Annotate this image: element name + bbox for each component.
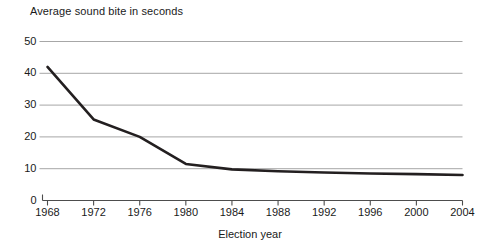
x-tick-label-2000: 2000 <box>396 206 436 218</box>
y-tick-label-50: 50 <box>15 35 37 47</box>
axis-group <box>43 195 463 201</box>
x-tick-label-1984: 1984 <box>212 206 252 218</box>
chart-container: Average sound bite in seconds 0102030405… <box>0 0 500 252</box>
y-tick-label-0: 0 <box>15 194 37 206</box>
x-tick-label-1980: 1980 <box>166 206 206 218</box>
x-tick-label-1992: 1992 <box>304 206 344 218</box>
y-tick-label-30: 30 <box>15 98 37 110</box>
x-tick-label-1988: 1988 <box>258 206 298 218</box>
gridline-group <box>40 42 463 169</box>
x-tick-label-1976: 1976 <box>120 206 160 218</box>
x-axis-title: Election year <box>0 228 500 240</box>
y-tick-label-20: 20 <box>15 130 37 142</box>
y-tick-label-10: 10 <box>15 162 37 174</box>
x-tick-label-2004: 2004 <box>443 206 483 218</box>
data-line-series-1 <box>48 67 463 175</box>
y-tick-label-40: 40 <box>15 66 37 78</box>
x-tick-label-1996: 1996 <box>350 206 390 218</box>
x-tick-group <box>48 201 463 206</box>
x-tick-label-1968: 1968 <box>28 206 68 218</box>
x-tick-label-1972: 1972 <box>74 206 114 218</box>
